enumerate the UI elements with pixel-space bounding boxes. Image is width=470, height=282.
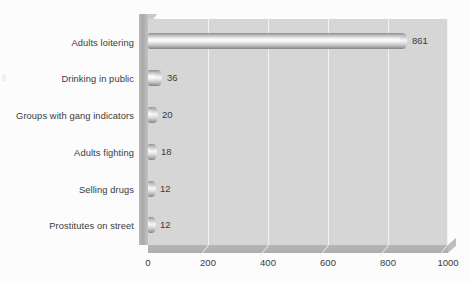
plot-area: [148, 19, 448, 245]
bar-adults-loitering[interactable]: [148, 33, 403, 49]
bar-cap-adults-loitering: [400, 33, 407, 49]
bar-chart: Adults loitering Drinking in public Grou…: [0, 0, 470, 282]
plot-floor-end-bevel: [448, 238, 456, 253]
category-label-drinking-in-public: Drinking in public: [0, 74, 134, 85]
xtick-label-1000: 1000: [437, 257, 458, 268]
gridline-600: [328, 19, 329, 245]
xtick-label-600: 600: [320, 257, 336, 268]
xtick-label-800: 800: [380, 257, 396, 268]
bar-cap-prostitutes-on-street: [149, 217, 156, 233]
gridline-400: [268, 19, 269, 245]
gridline-800: [388, 19, 389, 245]
bar-value-selling-drugs: 12: [160, 182, 171, 195]
category-label-prostitutes-on-street: Prostitutes on street: [0, 221, 134, 232]
plot-left-wall: [139, 14, 148, 245]
bar-cap-groups-with-gang-indicators: [151, 107, 158, 123]
bar-value-drinking-in-public: 36: [167, 71, 178, 84]
category-label-adults-fighting: Adults fighting: [0, 148, 134, 159]
bar-value-adults-loitering: 861: [412, 34, 428, 47]
bar-cap-adults-fighting: [150, 144, 157, 160]
xtick-label-200: 200: [200, 257, 216, 268]
xtick-label-400: 400: [260, 257, 276, 268]
category-axis-labels: Adults loitering Drinking in public Grou…: [0, 0, 134, 282]
xtick-label-0: 0: [145, 257, 150, 268]
category-label-selling-drugs: Selling drugs: [0, 185, 134, 196]
bar-cap-drinking-in-public: [155, 70, 162, 86]
bar-value-prostitutes-on-street: 12: [160, 218, 171, 231]
category-label-adults-loitering: Adults loitering: [0, 38, 134, 49]
plot-floor: [148, 245, 448, 253]
bar-value-groups-with-gang-indicators: 20: [162, 108, 173, 121]
category-label-groups-with-gang-indicators: Groups with gang indicators: [0, 111, 134, 122]
gridline-1000: [447, 19, 448, 245]
gridline-200: [208, 19, 209, 245]
bar-cap-selling-drugs: [149, 181, 156, 197]
bar-value-adults-fighting: 18: [161, 145, 172, 158]
